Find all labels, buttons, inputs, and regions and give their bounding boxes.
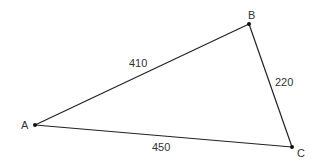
vertex-b-point: [247, 22, 251, 26]
vertex-a-label: A: [21, 119, 29, 131]
vertex-a-point: [33, 123, 37, 127]
vertex-b-label: B: [248, 9, 255, 21]
side-ac-length: 450: [152, 141, 170, 153]
side-bc-length: 220: [275, 76, 293, 88]
vertex-c-label: C: [297, 147, 305, 159]
triangle-diagram: A B C 410 220 450: [0, 0, 315, 167]
side-ab: [35, 24, 249, 125]
side-ab-length: 410: [129, 57, 147, 69]
vertex-c-point: [290, 145, 294, 149]
